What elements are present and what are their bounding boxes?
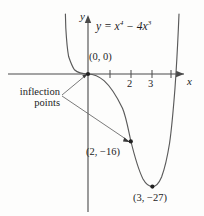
y-axis-arrowhead bbox=[85, 15, 91, 23]
equation-exponent-2: 3 bbox=[148, 19, 152, 27]
equation-lhs: y = x bbox=[96, 20, 120, 32]
point-inflection-2 bbox=[129, 139, 133, 143]
point-label-inflection-2: (2, −16) bbox=[86, 146, 120, 157]
inflection-points-annotation: inflection points bbox=[4, 86, 60, 108]
x-tick-label-3: 3 bbox=[148, 78, 153, 89]
function-graph-figure: y = x4 − 4x3 y x 2 3 (0, 0) (2, −16) (3,… bbox=[0, 0, 204, 216]
leader-line-to-origin bbox=[62, 76, 86, 96]
point-minimum bbox=[150, 185, 154, 189]
annotation-line-2: points bbox=[4, 97, 60, 108]
point-origin bbox=[86, 72, 90, 76]
leader-line-to-inflection2 bbox=[62, 96, 127, 140]
x-axis-label: x bbox=[187, 76, 192, 88]
x-tick-label-2: 2 bbox=[127, 78, 132, 89]
x-axis-arrowhead bbox=[176, 71, 184, 77]
y-axis-label: y bbox=[80, 11, 85, 23]
annotation-line-1: inflection bbox=[4, 86, 60, 97]
equation-label: y = x4 − 4x3 bbox=[96, 20, 151, 32]
point-label-minimum: (3, −27) bbox=[133, 192, 167, 203]
equation-mid: − 4x bbox=[123, 20, 147, 32]
function-curve-left-branch bbox=[65, 14, 68, 57]
function-curve bbox=[69, 14, 179, 187]
point-label-origin: (0, 0) bbox=[89, 51, 112, 62]
